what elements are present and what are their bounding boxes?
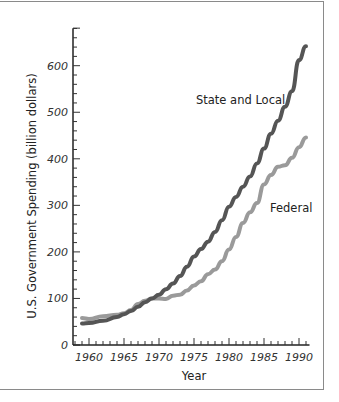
y-tick-label: 100 [47, 292, 68, 305]
x-tick-label: 1990 [285, 351, 313, 364]
data-lines [82, 46, 306, 323]
series-line-state-and-local [82, 46, 306, 323]
y-tick-label: 500 [47, 106, 68, 119]
y-tick-label: 0 [61, 339, 68, 352]
line-chart: 0100200300400500600 19601965197019751980… [0, 0, 339, 402]
y-axis: 0100200300400500600 [47, 28, 80, 352]
y-axis-title: U.S. Government Spending (billion dollar… [25, 73, 39, 318]
series-line-federal [82, 137, 306, 319]
series-label-state-and-local: State and Local [196, 93, 285, 107]
x-tick-label: 1965 [110, 351, 138, 364]
y-tick-label: 300 [47, 199, 68, 212]
y-tick-label: 400 [47, 153, 68, 166]
y-tick-label: 600 [47, 60, 68, 73]
series-label-federal: Federal [270, 201, 312, 215]
x-axis-title: Year [181, 369, 207, 383]
x-axis: 1960196519701975198019851990 [73, 338, 313, 364]
x-tick-label: 1970 [145, 351, 173, 364]
x-tick-label: 1975 [180, 351, 208, 364]
x-tick-label: 1980 [215, 351, 243, 364]
x-tick-label: 1985 [250, 351, 278, 364]
y-tick-label: 200 [47, 246, 68, 259]
x-tick-label: 1960 [75, 351, 103, 364]
